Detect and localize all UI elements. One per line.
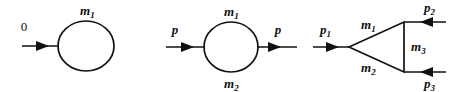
tadpole-mass-label-m1: m1 [80,3,95,20]
bubble-loop-circle [204,22,258,72]
bubble-momentum-label-in: p [171,22,179,37]
bubble-mass-label-m2: m2 [224,76,239,92]
triangle-vertex-diagram: p1 p2 p3 m1 m2 m3 [313,0,446,92]
triangle-p1-arrowhead [326,42,339,52]
tadpole-loop-circle [58,21,114,71]
triangle-mass-label-m1: m1 [361,17,376,34]
bubble-incoming-arrowhead [181,42,194,52]
triangle-p2-arrowhead [420,17,433,27]
triangle-mass-label-m3: m3 [411,39,426,56]
diagram-canvas: 0 m1 p p m1 m2 [0,0,457,92]
triangle-momentum-label-p2: p2 [423,0,436,17]
bubble-mass-label-m1: m1 [224,4,239,21]
tadpole-incoming-arrowhead [36,41,49,51]
self-energy-bubble-diagram: p p m1 m2 [166,4,297,92]
triangle-mass-label-m2: m2 [361,60,376,77]
triangle-momentum-label-p1: p1 [319,22,331,39]
triangle-loop-outline [349,22,404,72]
triangle-momentum-label-p3: p3 [423,76,436,92]
feynman-diagram-figure: 0 m1 p p m1 m2 [0,0,457,92]
bubble-momentum-label-out: p [274,22,282,37]
bubble-outgoing-arrowhead [268,42,281,52]
tadpole-diagram: 0 m1 [21,3,114,71]
tadpole-momentum-label: 0 [21,19,28,34]
